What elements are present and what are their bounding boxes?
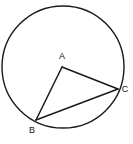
vertex-label-a: A — [59, 51, 65, 61]
vertex-label-c: C — [122, 84, 129, 94]
geometry-canvas: A B C — [0, 0, 133, 144]
vertex-label-b: B — [29, 125, 35, 135]
geometry-figure: A B C — [0, 0, 133, 144]
